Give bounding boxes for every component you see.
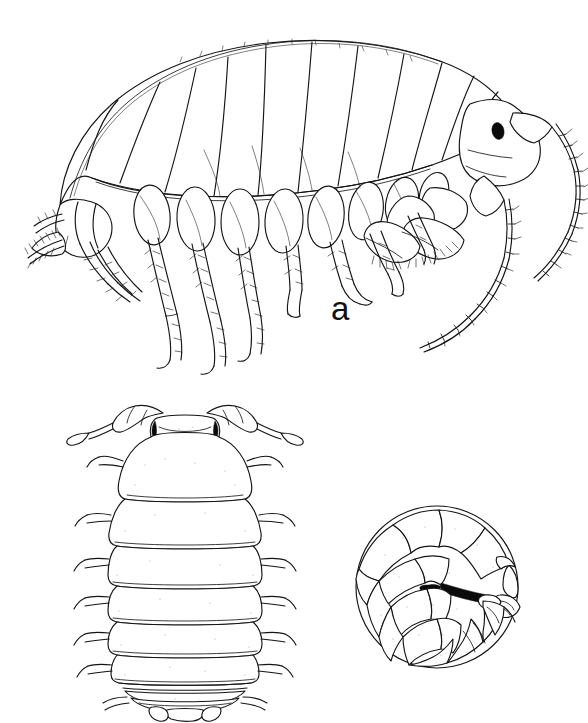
panel-label-a: a: [331, 292, 349, 325]
antenna-1-segments: [543, 134, 584, 276]
isopod-dorsal-drawing: [55, 385, 315, 723]
pereopod-3: [236, 247, 264, 361]
isopod-pereonite-4: [74, 586, 296, 625]
pereopod-4: [284, 245, 303, 317]
amphipod-drawing: [0, 0, 588, 370]
pereopod-5-setae: [328, 251, 353, 280]
panel-b-isopod-dorsal: b: [55, 385, 315, 723]
panel-a-amphipod-lateral: a: [0, 0, 588, 370]
isopod-pereonite-1: [87, 433, 283, 503]
isopod-pereonite-5: [74, 622, 296, 658]
amphipod-head: [459, 100, 540, 186]
isopod-pereonite-3: [74, 546, 296, 589]
figure-plate: a: [0, 0, 588, 723]
antenna-1-setae: [557, 129, 588, 268]
isopod-pereonite-2: [75, 499, 295, 549]
conglobated-isopod-drawing: [345, 495, 550, 680]
amphipod-urosome: [25, 199, 142, 302]
panel-c-isopod-conglobated: c: [345, 495, 550, 680]
isopod-pereonite-6: [77, 655, 293, 685]
pereopod-2: [190, 243, 227, 374]
pereopod-1-setae: [145, 249, 182, 352]
pereopod-1: [145, 238, 182, 368]
pereopod-3-setae: [236, 256, 264, 344]
